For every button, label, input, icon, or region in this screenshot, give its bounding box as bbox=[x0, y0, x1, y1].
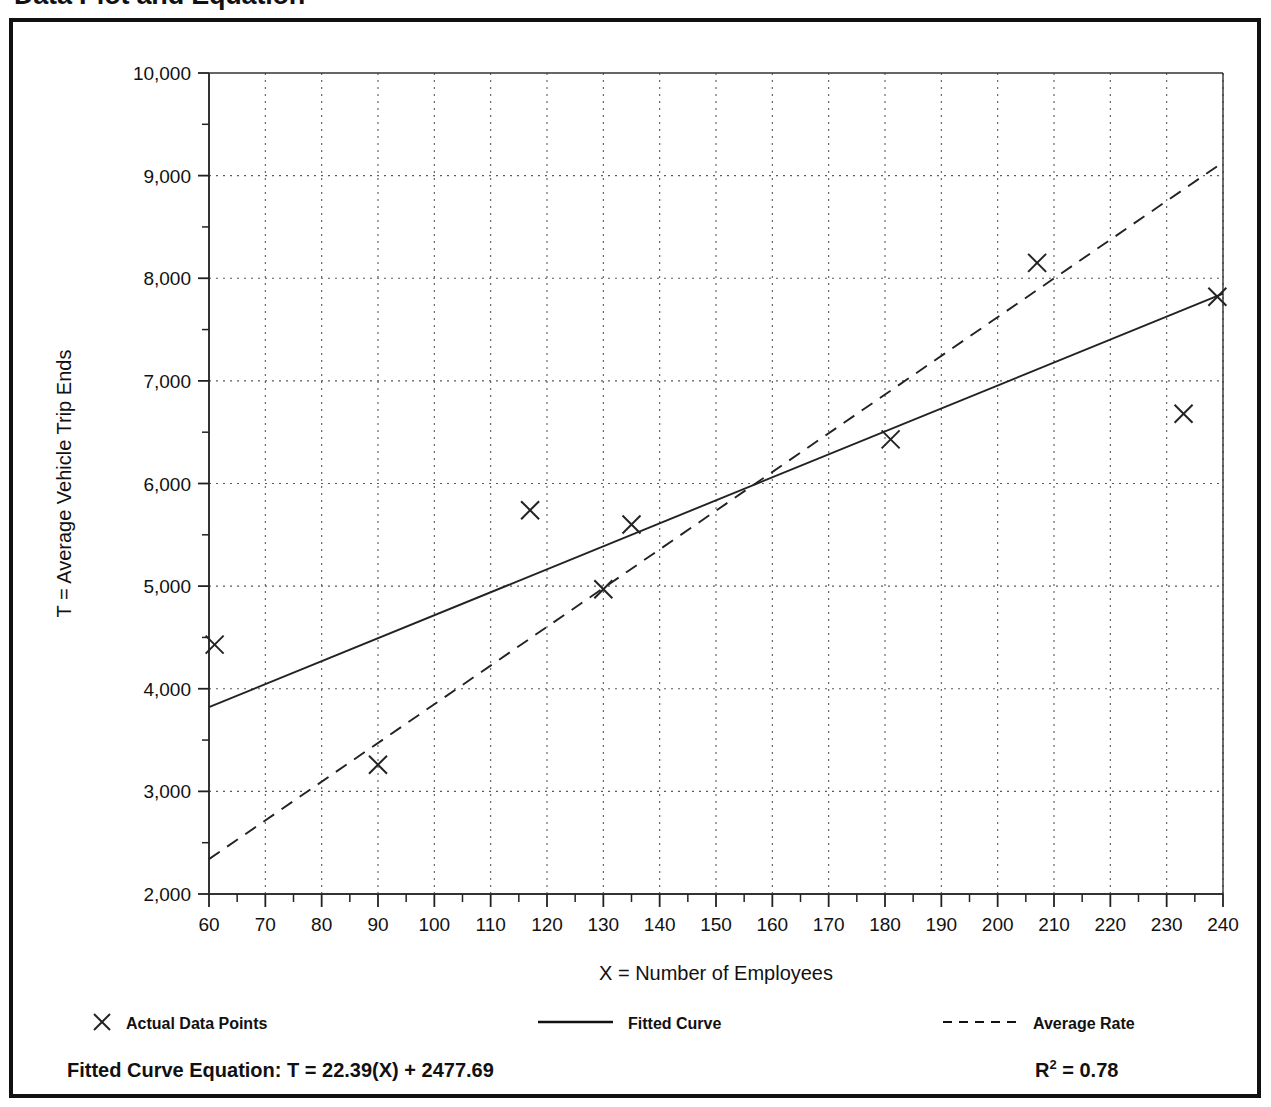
x-axis-tick-label: 210 bbox=[1038, 914, 1070, 935]
series-line-average-rate bbox=[209, 162, 1223, 859]
x-axis-tick-label: 190 bbox=[925, 914, 957, 935]
data-point-marker bbox=[882, 430, 900, 448]
y-axis-tick-label: 8,000 bbox=[143, 268, 191, 289]
y-axis-tick-label: 6,000 bbox=[143, 474, 191, 495]
y-axis-tick-label: 3,000 bbox=[143, 781, 191, 802]
x-axis-tick-label: 100 bbox=[418, 914, 450, 935]
x-axis-tick-label: 220 bbox=[1094, 914, 1126, 935]
legend-label-average-rate: Average Rate bbox=[1033, 1015, 1135, 1032]
y-axis-tick-label: 5,000 bbox=[143, 576, 191, 597]
data-point-marker bbox=[1175, 405, 1193, 423]
x-axis-tick-label: 80 bbox=[311, 914, 332, 935]
x-axis-tick-label: 230 bbox=[1151, 914, 1183, 935]
fitted-curve-equation: Fitted Curve Equation: T = 22.39(X) + 24… bbox=[67, 1059, 494, 1081]
y-axis-tick-label: 4,000 bbox=[143, 679, 191, 700]
y-axis-title: T = Average Vehicle Trip Ends bbox=[53, 350, 75, 618]
r-squared-annotation: R2 = 0.78 bbox=[1035, 1057, 1118, 1081]
page-root: Data Plot and Equation 2,0003,0004,0005,… bbox=[0, 0, 1271, 1107]
data-point-marker bbox=[594, 580, 612, 598]
chart-area: 2,0003,0004,0005,0006,0007,0008,0009,000… bbox=[13, 22, 1257, 1094]
x-axis-tick-label: 170 bbox=[813, 914, 845, 935]
y-axis-tick-label: 7,000 bbox=[143, 371, 191, 392]
x-axis-tick-label: 110 bbox=[476, 914, 506, 935]
y-axis-tick-label: 9,000 bbox=[143, 166, 191, 187]
data-point-marker bbox=[1028, 254, 1046, 272]
x-axis-title: X = Number of Employees bbox=[599, 962, 833, 984]
page-title: Data Plot and Equation bbox=[14, 0, 305, 11]
x-axis-tick-label: 130 bbox=[587, 914, 619, 935]
x-axis-tick-label: 150 bbox=[700, 914, 732, 935]
x-axis-tick-label: 180 bbox=[869, 914, 901, 935]
y-axis-tick-label: 2,000 bbox=[143, 884, 191, 905]
x-axis-tick-label: 90 bbox=[367, 914, 388, 935]
x-axis-tick-label: 200 bbox=[982, 914, 1014, 935]
data-point-marker bbox=[623, 516, 641, 534]
legend-label-fitted-curve: Fitted Curve bbox=[628, 1015, 721, 1032]
x-axis-tick-label: 140 bbox=[644, 914, 676, 935]
x-axis-tick-label: 120 bbox=[531, 914, 563, 935]
x-axis-tick-label: 70 bbox=[255, 914, 276, 935]
legend-label-actual-data-points: Actual Data Points bbox=[126, 1015, 267, 1032]
legend-marker-actual-data-points bbox=[94, 1014, 110, 1030]
data-point-marker bbox=[521, 501, 539, 519]
series-line-fitted-curve bbox=[209, 294, 1223, 708]
x-axis-tick-label: 160 bbox=[756, 914, 788, 935]
figure-frame: 2,0003,0004,0005,0006,0007,0008,0009,000… bbox=[9, 18, 1261, 1098]
x-axis-tick-label: 240 bbox=[1207, 914, 1239, 935]
data-point-marker bbox=[369, 756, 387, 774]
x-axis-tick-label: 60 bbox=[198, 914, 219, 935]
y-axis-tick-label: 10,000 bbox=[133, 63, 191, 84]
chart-svg: 2,0003,0004,0005,0006,0007,0008,0009,000… bbox=[13, 22, 1257, 1094]
